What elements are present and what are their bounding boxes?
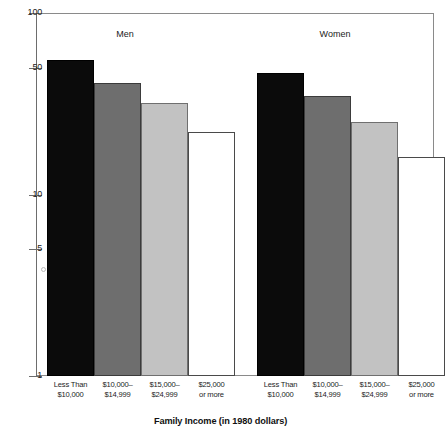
x-category-label-line1: $15,000–	[149, 380, 179, 389]
x-category-label-men-2: $10,000–$14,999	[94, 380, 141, 399]
x-category-label-line2: $10,000	[257, 390, 304, 400]
x-category-label-women-2: $10,000–$14,999	[304, 380, 351, 399]
bar-men-3	[141, 103, 188, 376]
x-category-label-men-1: Less Than$10,000	[47, 380, 94, 399]
x-category-label-women-1: Less Than$10,000	[257, 380, 304, 399]
x-category-label-men-3: $15,000–$24,999	[141, 380, 188, 399]
bar-women-4	[398, 157, 445, 376]
x-category-label-line2: or more	[398, 390, 445, 400]
x-category-label-line1: $15,000–	[359, 380, 389, 389]
x-category-label-line2: or more	[188, 390, 235, 400]
x-category-label-line1: $25,000	[408, 380, 434, 389]
x-category-label-line1: Less Than	[54, 380, 88, 389]
x-category-label-line2: $14,999	[304, 390, 351, 400]
x-category-label-line2: $24,999	[351, 390, 398, 400]
bar-women-3	[351, 122, 398, 376]
group-label-men: Men	[95, 29, 155, 39]
bar-men-1	[47, 60, 94, 376]
x-category-label-line1: $10,000–	[102, 380, 132, 389]
bar-women-1	[257, 73, 304, 376]
x-category-label-women-3: $15,000–$24,999	[351, 380, 398, 399]
bar-men-4	[188, 132, 235, 376]
x-category-label-line2: $10,000	[47, 390, 94, 400]
x-category-label-line1: $25,000	[198, 380, 224, 389]
x-category-label-men-4: $25,000or more	[188, 380, 235, 399]
x-category-label-line2: $24,999	[141, 390, 188, 400]
bar-men-2	[94, 83, 141, 376]
bar-women-2	[304, 96, 351, 376]
x-axis-title: Family Income (in 1980 dollars)	[0, 416, 441, 426]
x-category-label-line1: $10,000–	[312, 380, 342, 389]
x-category-label-line1: Less Than	[264, 380, 298, 389]
scan-artifact-speck	[41, 267, 46, 272]
group-label-women: Women	[305, 29, 365, 39]
x-category-label-line2: $14,999	[94, 390, 141, 400]
x-category-label-women-4: $25,000or more	[398, 380, 445, 399]
